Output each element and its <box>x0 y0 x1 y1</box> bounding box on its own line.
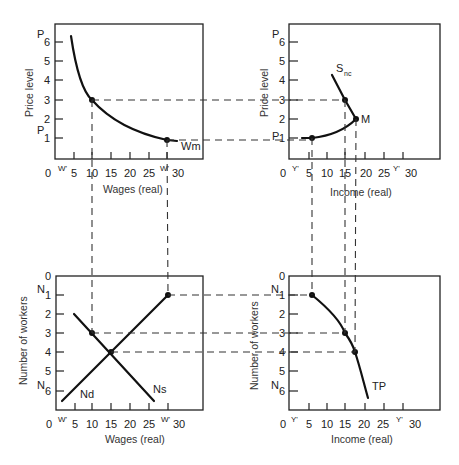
x-tick-25: 25 <box>378 167 390 179</box>
four-quadrant-diagram: 6 5 4 3 2 1 P P 0 W' 5 10 15 20 25 W' 30… <box>0 0 459 465</box>
x-tick-0: 0 <box>45 167 51 179</box>
y-tick-5: 5 <box>279 365 285 377</box>
x-tick-30: 30 <box>405 167 417 179</box>
y-tick-2: 2 <box>279 113 285 125</box>
y-axis-label: Number of workers <box>248 301 260 390</box>
y-tick-2: 2 <box>45 308 51 320</box>
y-marker-n-lower: N <box>271 379 279 391</box>
y-marker-p-lower: P <box>37 124 44 136</box>
x-axis-label: Wages (real) <box>103 183 163 195</box>
x-tick-10: 10 <box>321 418 333 430</box>
x-tick-0: 0 <box>280 167 286 179</box>
y-tick-3: 3 <box>45 327 51 339</box>
x-axis-label: Wages (real) <box>105 433 165 445</box>
y-axis-label: Price level <box>23 69 35 117</box>
x-tick-30: 30 <box>409 418 421 430</box>
y-marker-p-upper: P <box>272 28 279 40</box>
x-tick-25: 25 <box>377 418 389 430</box>
y-marker-n-upper: N <box>37 283 45 295</box>
x-tick-10: 10 <box>321 167 333 179</box>
tp-label: TP <box>372 380 386 392</box>
y-marker-p-upper: P <box>37 28 44 40</box>
frame <box>55 24 203 159</box>
wm-curve <box>71 36 177 141</box>
x-marker-w-lower: W' <box>58 164 68 173</box>
x-tick-20: 20 <box>124 418 136 430</box>
panel-labor-market: 0 1 2 3 4 5 6 N N 0 W' 5 10 15 20 25 W' … <box>17 270 203 445</box>
y-tick-4: 4 <box>44 74 50 86</box>
y-tick-1: 1 <box>279 132 285 144</box>
y-tick-3: 3 <box>44 94 50 106</box>
x-axis-label: Income (real) <box>331 433 393 445</box>
wm-label: Wm <box>181 140 201 152</box>
x-tick-25: 25 <box>143 418 155 430</box>
x-tick-10: 10 <box>86 418 98 430</box>
snc-label: S <box>336 62 343 74</box>
x-tick-15: 15 <box>105 418 117 430</box>
x-tick-25: 25 <box>143 167 155 179</box>
panel-wage-price: 6 5 4 3 2 1 P P 0 W' 5 10 15 20 25 W' 30… <box>23 24 203 195</box>
x-tick-20: 20 <box>358 418 370 430</box>
y-tick-4: 4 <box>279 74 285 86</box>
x-tick-5: 5 <box>306 418 312 430</box>
frame <box>56 276 203 410</box>
y-tick-6: 6 <box>45 385 51 397</box>
x-tick-0: 0 <box>46 418 52 430</box>
y-tick-4: 4 <box>45 346 51 358</box>
x-marker-w-lower: W' <box>58 415 68 424</box>
y-marker-n-upper: N <box>271 283 279 295</box>
x-tick-30: 30 <box>172 167 184 179</box>
y-tick-0: 0 <box>45 270 51 282</box>
x-tick-20: 20 <box>124 167 136 179</box>
y-axis-label: Number of workers <box>17 296 29 385</box>
y-tick-2: 2 <box>44 113 50 125</box>
x-marker-y-upper: Y' <box>396 415 403 424</box>
snc-curve <box>302 75 356 138</box>
x-marker-w-upper: W' <box>161 415 171 424</box>
nd-label: Nd <box>80 388 94 400</box>
x-tick-5: 5 <box>306 167 312 179</box>
x-tick-15: 15 <box>339 418 351 430</box>
ns-label: Ns <box>153 383 167 395</box>
tp-curve <box>312 295 368 398</box>
x-tick-15: 15 <box>105 167 117 179</box>
x-marker-y-lower: Y' <box>291 415 298 424</box>
x-tick-30: 30 <box>173 418 185 430</box>
y-tick-1: 1 <box>45 289 51 301</box>
x-tick-0: 0 <box>280 418 286 430</box>
y-tick-2: 2 <box>279 308 285 320</box>
y-tick-5: 5 <box>45 365 51 377</box>
m-label: M <box>361 113 370 125</box>
y-tick-6: 6 <box>279 385 285 397</box>
y-tick-0: 0 <box>279 270 285 282</box>
x-tick-5: 5 <box>72 418 78 430</box>
x-marker-y-upper: Y' <box>393 164 400 173</box>
y-axis-label: Price level <box>258 69 270 117</box>
x-marker-y-lower: Y' <box>292 164 299 173</box>
panel-total-product: 0 1 2 3 4 5 6 N N 0 Y' 5 10 15 20 25 Y' … <box>248 270 440 445</box>
snc-subscript: nc <box>344 70 352 77</box>
y-tick-6: 6 <box>279 36 285 48</box>
y-tick-5: 5 <box>44 55 50 67</box>
dash-y18 <box>355 119 356 352</box>
x-tick-20: 20 <box>360 167 372 179</box>
panel-aggregate-supply: 6 5 4 3 2 1 P P 0 Y' 5 10 15 20 25 Y' 30… <box>258 24 440 198</box>
y-marker-n-lower: N <box>37 379 45 391</box>
x-axis-label: Income (real) <box>330 186 392 198</box>
y-tick-1: 1 <box>44 132 50 144</box>
x-tick-5: 5 <box>71 167 77 179</box>
x-marker-w-upper: W' <box>160 164 170 173</box>
y-tick-5: 5 <box>279 55 285 67</box>
y-tick-6: 6 <box>44 36 50 48</box>
